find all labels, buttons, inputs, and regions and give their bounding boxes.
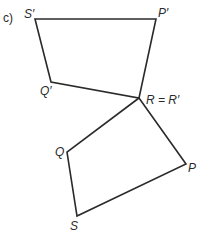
- vertex-label-q-prime: Q′: [40, 84, 52, 98]
- vertex-label-q: Q: [55, 145, 64, 159]
- vertex-label-p-prime: P′: [158, 6, 169, 20]
- rotation-diagram: c) S′ P′ Q′ R = R′ Q P S: [0, 0, 204, 231]
- part-label: c): [3, 11, 13, 25]
- vertex-label-p: P: [188, 161, 196, 175]
- vertex-label-r-equals-r-prime: R = R′: [146, 93, 180, 107]
- vertex-label-s-prime: S′: [24, 7, 35, 21]
- object-quadrilateral: [67, 98, 186, 216]
- image-quadrilateral: [35, 19, 156, 98]
- vertex-label-s: S: [70, 219, 78, 231]
